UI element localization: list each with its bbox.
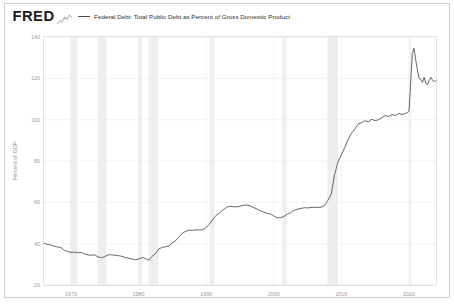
x-tick-label: 1990: [200, 291, 212, 297]
x-tick-label: 1980: [133, 291, 145, 297]
chart-plot-svg: 14012010080604020 1970198019902000201020…: [5, 28, 451, 297]
fred-chart-window: FRED Federal Debt: Total Public Debt as …: [0, 0, 454, 308]
fred-logo: FRED: [13, 9, 55, 24]
plot-area: 14012010080604020 1970198019902000201020…: [5, 28, 449, 297]
y-tick-label: 20: [34, 282, 40, 288]
y-tick-label: 80: [34, 158, 40, 164]
y-tick-label: 100: [31, 117, 40, 123]
y-tick-label: 120: [31, 75, 40, 81]
x-tick-label: 2020: [403, 291, 415, 297]
y-tick-label: 40: [34, 241, 40, 247]
chart-card: FRED Federal Debt: Total Public Debt as …: [4, 3, 450, 298]
x-tick-label: 2010: [335, 291, 347, 297]
x-tick-label: 2000: [268, 291, 280, 297]
x-tick-label: 1970: [65, 291, 77, 297]
y-tick-label: 140: [31, 34, 40, 40]
x-axis-ticks: 197019801990200020102020: [65, 291, 415, 297]
y-axis-ticks: 14012010080604020: [31, 34, 40, 288]
line-swatch-icon: [78, 16, 90, 17]
chart-header: FRED Federal Debt: Total Public Debt as …: [5, 4, 449, 28]
chart-legend: Federal Debt: Total Public Debt as Perce…: [78, 13, 290, 20]
y-tick-label: 60: [34, 199, 40, 205]
legend-series-label: Federal Debt: Total Public Debt as Perce…: [94, 13, 290, 20]
fred-squiggle-icon: [57, 11, 72, 22]
y-axis-title: Percent of GDP: [12, 141, 18, 180]
